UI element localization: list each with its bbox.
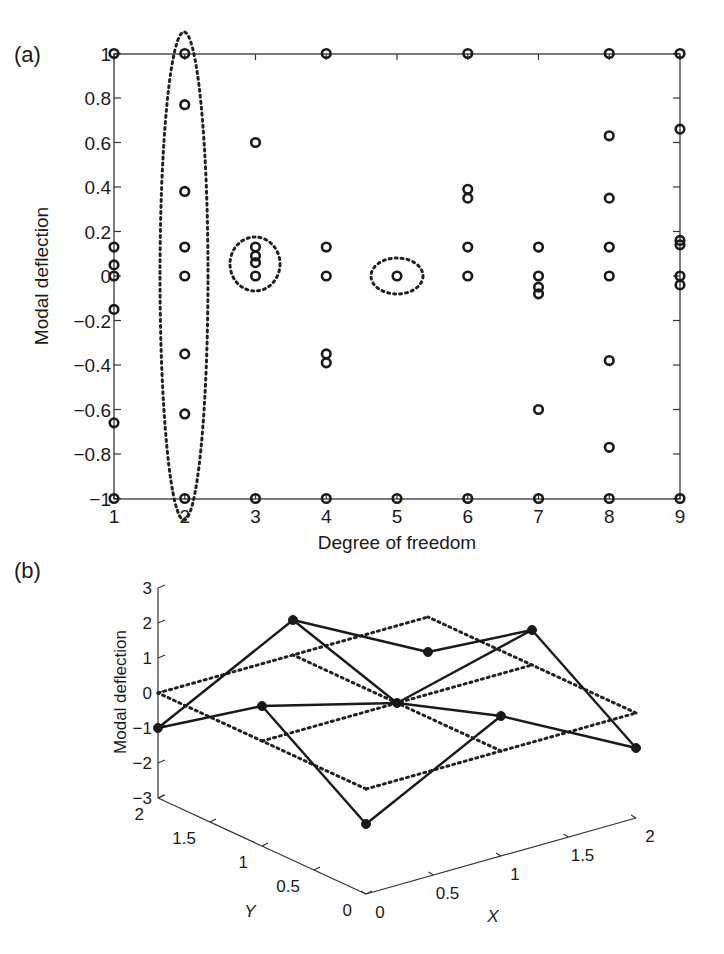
x-tick-label: 5 bbox=[392, 506, 403, 527]
data-points bbox=[110, 49, 685, 503]
x-tick-label: 6 bbox=[462, 506, 473, 527]
data-point bbox=[393, 272, 402, 281]
scatter-plot-panel-a: (a) −1−0.8−0.6−0.4−0.200.20.40.60.81 123… bbox=[14, 32, 685, 553]
y-tick-label: −0.6 bbox=[73, 400, 111, 421]
mode-line bbox=[501, 716, 636, 748]
mode-shape bbox=[154, 616, 641, 829]
data-point bbox=[322, 350, 331, 359]
data-point bbox=[534, 243, 543, 252]
figure: (a) −1−0.8−0.6−0.4−0.200.20.40.60.81 123… bbox=[0, 0, 724, 954]
y-axis-label-3d: Y bbox=[244, 902, 257, 921]
mode-line bbox=[428, 630, 532, 652]
z-tick-label: 0 bbox=[143, 684, 152, 703]
data-point bbox=[251, 138, 260, 147]
data-point bbox=[605, 443, 614, 452]
data-point bbox=[180, 350, 189, 359]
x-tick-label-3d: 1.5 bbox=[571, 846, 595, 865]
y-tick-label: −0.8 bbox=[73, 444, 111, 465]
z-tick-label: −2 bbox=[133, 754, 152, 773]
mode-node bbox=[154, 724, 163, 733]
dof5-ellipse bbox=[371, 258, 423, 294]
y-tick-label-3d: 2 bbox=[135, 805, 144, 824]
highlight-ellipses bbox=[160, 32, 423, 520]
mode-node bbox=[497, 712, 506, 721]
z-tick-label: 3 bbox=[143, 579, 152, 598]
data-point bbox=[251, 272, 260, 281]
mode-line bbox=[262, 703, 397, 706]
data-point bbox=[463, 243, 472, 252]
data-point bbox=[322, 358, 331, 367]
z-axis-label: Modal deflection bbox=[111, 630, 130, 754]
x-tick-label-3d: 2 bbox=[645, 827, 654, 846]
data-point bbox=[605, 356, 614, 365]
3d-plot-panel-b: (b) −3−2−1012300.511.5200.511.52 Modal d… bbox=[14, 558, 655, 926]
y-tick-label: 0.6 bbox=[85, 133, 111, 154]
y-axis-label: Modal deflection bbox=[31, 207, 52, 345]
x-tick-label-3d: 1 bbox=[510, 865, 519, 884]
data-point bbox=[463, 185, 472, 194]
data-point bbox=[605, 243, 614, 252]
mode-line bbox=[532, 630, 636, 748]
data-point bbox=[322, 272, 331, 281]
x-axis-label: Degree of freedom bbox=[318, 532, 476, 553]
z-tick-label: −1 bbox=[133, 719, 152, 738]
mode-node bbox=[424, 648, 433, 657]
panel-b-label: (b) bbox=[14, 558, 41, 583]
mode-line bbox=[397, 630, 532, 703]
data-point bbox=[605, 132, 614, 141]
x-tick-label: 7 bbox=[533, 506, 544, 527]
data-point bbox=[180, 100, 189, 109]
mode-node bbox=[393, 699, 402, 708]
data-point bbox=[534, 405, 543, 414]
data-point bbox=[534, 272, 543, 281]
z-tick-label: 1 bbox=[143, 649, 152, 668]
x-tick-label: 8 bbox=[604, 506, 615, 527]
mode-node bbox=[528, 626, 537, 635]
y-tick-label: 0.2 bbox=[85, 222, 111, 243]
mode-node bbox=[258, 702, 267, 711]
x-tick-label: 4 bbox=[321, 506, 332, 527]
grid-line bbox=[158, 617, 428, 693]
z-tick-label: 2 bbox=[143, 614, 152, 633]
data-point bbox=[322, 243, 331, 252]
y-tick-label: 0.8 bbox=[85, 88, 111, 109]
data-point bbox=[180, 243, 189, 252]
mode-node bbox=[289, 616, 298, 625]
data-point bbox=[605, 272, 614, 281]
x-tick-label-3d: 0.5 bbox=[436, 884, 460, 903]
dof3-circle bbox=[230, 237, 280, 291]
3d-axis-ticks: −3−2−1012300.511.5200.511.52 bbox=[133, 579, 655, 922]
plot-a-frame bbox=[114, 54, 680, 499]
x-tick-label: 9 bbox=[675, 506, 686, 527]
y-tick-label-3d: 0.5 bbox=[276, 877, 300, 896]
data-point bbox=[180, 272, 189, 281]
mode-line bbox=[366, 716, 501, 824]
data-point bbox=[180, 410, 189, 419]
data-point bbox=[251, 258, 260, 267]
x-tick-label: 3 bbox=[250, 506, 261, 527]
x-tick-label-3d: 0 bbox=[375, 903, 384, 922]
data-point bbox=[534, 290, 543, 299]
y-tick-label: 0.4 bbox=[85, 177, 112, 198]
data-point bbox=[251, 243, 260, 252]
panel-a-label: (a) bbox=[14, 42, 41, 67]
y-axis-ticks: −1−0.8−0.6−0.4−0.200.20.40.60.81 bbox=[73, 44, 680, 510]
y-tick-label-3d: 1.5 bbox=[172, 829, 196, 848]
data-point bbox=[463, 194, 472, 203]
y-tick-label-3d: 0 bbox=[343, 901, 352, 920]
x-axis-label-3d: X bbox=[486, 907, 499, 926]
data-point bbox=[605, 194, 614, 203]
data-point bbox=[463, 272, 472, 281]
y-tick-label: −0.2 bbox=[73, 311, 111, 332]
x-axis-ticks: 123456789 bbox=[109, 54, 686, 527]
dof2-ellipse bbox=[160, 32, 208, 520]
mode-line bbox=[262, 706, 366, 824]
y-tick-label-3d: 1 bbox=[239, 853, 248, 872]
mode-line bbox=[158, 620, 293, 728]
data-point bbox=[180, 187, 189, 196]
mode-node bbox=[362, 820, 371, 829]
x-tick-label: 1 bbox=[109, 506, 120, 527]
mode-node bbox=[632, 744, 641, 753]
y-tick-label: −0.4 bbox=[73, 355, 111, 376]
